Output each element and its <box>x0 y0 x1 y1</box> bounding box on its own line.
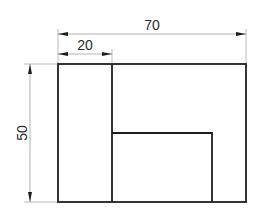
dimension-overall-width: 70 <box>58 17 246 36</box>
arrow-right-icon <box>236 32 246 36</box>
arrow-right-icon <box>102 52 112 56</box>
arrow-left-icon <box>58 52 68 56</box>
dimension-label-70: 70 <box>144 17 160 33</box>
arrow-up-icon <box>28 64 32 74</box>
technical-drawing: 70 20 50 <box>0 0 260 217</box>
arrow-down-icon <box>28 192 32 202</box>
object-outline <box>58 64 246 202</box>
inner-rectangle <box>112 133 212 202</box>
dimension-overall-height: 50 <box>14 64 32 202</box>
dimension-label-50: 50 <box>14 125 30 141</box>
dimension-left-part-width: 20 <box>58 37 112 56</box>
dimension-label-20: 20 <box>77 37 93 53</box>
arrow-left-icon <box>58 32 68 36</box>
